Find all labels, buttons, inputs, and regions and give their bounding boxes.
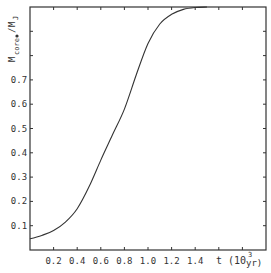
data-line [30, 7, 207, 239]
y-axis-label-dot-icon [15, 34, 18, 37]
y-axis-label: M core / M J [7, 16, 21, 62]
y-axis-label-slash: / [7, 28, 17, 33]
x-tick-label: 0.6 [93, 256, 109, 266]
y-axis-ticks [30, 31, 266, 225]
chart-plot: 0.20.40.60.81.01.21.4 0.10.20.30.40.50.6… [0, 0, 271, 273]
x-tick-label: 0.2 [45, 256, 61, 266]
x-tick-label: 0.4 [69, 256, 85, 266]
chart: 0.20.40.60.81.01.21.4 0.10.20.30.40.50.6… [0, 0, 271, 273]
x-tick-label: 1.2 [163, 256, 179, 266]
y-axis-tick-labels: 0.10.20.30.40.50.60.7 [11, 75, 27, 231]
y-tick-label: 0.1 [11, 221, 27, 231]
y-axis-label-m2: M [7, 21, 17, 27]
x-axis-label-main: t (10 [216, 255, 246, 266]
y-tick-label: 0.4 [11, 148, 27, 158]
x-tick-label: 1.0 [140, 256, 156, 266]
x-axis-label-unit: yr) [246, 258, 262, 268]
y-tick-label: 0.5 [11, 124, 27, 134]
x-tick-label: 1.4 [187, 256, 203, 266]
y-tick-label: 0.7 [11, 75, 27, 85]
y-axis-label-sub2: J [12, 16, 20, 20]
y-axis-label-sub1: core [13, 38, 21, 55]
y-tick-label: 0.6 [11, 99, 27, 109]
y-axis-label-m1: M [7, 56, 17, 62]
x-tick-label: 0.8 [116, 256, 132, 266]
x-axis-label: t (10 3 yr) [216, 251, 262, 268]
x-axis-tick-labels: 0.20.40.60.81.01.21.4 [45, 256, 203, 266]
y-tick-label: 0.3 [11, 172, 27, 182]
y-tick-label: 0.2 [11, 196, 27, 206]
